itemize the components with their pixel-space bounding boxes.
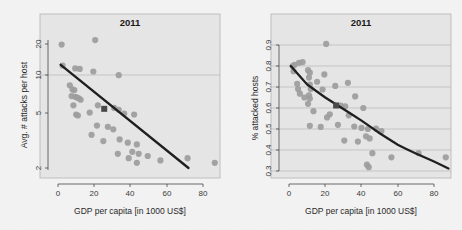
scatter-point [125,140,131,146]
scatter-point [310,108,316,114]
left-y-ticklabel-5: 5 [34,110,43,115]
scatter-point [324,114,330,120]
scatter-point [341,137,347,143]
right-x-ticklabel-20: 20 [321,189,330,198]
scatter-point [345,80,351,86]
scatter-point [360,105,366,111]
scatter-point [305,101,311,107]
panel-avg-attacks-per-host: 2011 20 10 5 2 0 20 40 60 80 [0,0,231,230]
scatter-point [117,136,123,142]
scatter-point [299,59,305,65]
scatter-point [115,151,121,157]
right-y-ticklabel-0-6: 0.6 [264,102,273,114]
scatter-point [332,83,338,89]
scatter-point [77,66,83,72]
highlight-marker [333,102,339,108]
scatter-point [90,68,96,74]
left-y-ticklabel-2: 2 [34,165,43,170]
scatter-point [157,157,163,163]
left-x-ticklabel-40: 40 [126,189,135,198]
scatter-point [110,126,116,132]
scatter-point [367,135,373,141]
scatter-point [212,160,218,166]
scatter-point [129,149,135,155]
scatter-point [105,124,111,130]
right-x-ticklabel-60: 60 [394,189,403,198]
right-y-ticklabel-0-8: 0.8 [264,60,273,72]
left-x-ticklabel-80: 80 [199,189,208,198]
scatter-point [88,132,94,138]
scatter-point [95,102,101,108]
scatter-point [323,41,329,47]
scatter-point [355,139,361,145]
scatter-point [100,138,106,144]
scatter-point [358,125,364,131]
right-y-ticklabel-0-4: 0.4 [264,144,273,156]
scatter-point [321,71,327,77]
right-plot-svg: 2011 0.9 0 [231,0,462,230]
scatter-point [369,150,375,156]
scatter-point [116,72,122,78]
right-y-axis-title: % attacked hosts [250,76,260,141]
panel-pct-attacked-hosts: 2011 0.9 0 [231,0,462,230]
left-y-ticklabel-20: 20 [34,39,43,48]
left-x-ticklabel-0: 0 [56,189,61,198]
two-panel-scatter-figure: 2011 20 10 5 2 0 20 40 60 80 [0,0,462,230]
right-x-ticklabel-40: 40 [357,189,366,198]
scatter-point [87,109,93,115]
left-plot-svg: 2011 20 10 5 2 0 20 40 60 80 [0,0,231,230]
scatter-point [78,97,84,103]
right-y-ticklabel-0-3: 0.3 [264,165,273,177]
scatter-point [131,111,137,117]
right-y-ticklabel-0-9: 0.9 [264,39,273,51]
scatter-point [352,93,358,99]
scatter-point [94,122,100,128]
right-y-ticklabel-0-5: 0.5 [264,123,273,135]
highlight-marker [101,106,107,112]
left-x-ticklabel-60: 60 [163,189,172,198]
scatter-point [351,123,357,129]
scatter-point [294,81,300,87]
scatter-point [145,153,151,159]
scatter-point [443,154,449,160]
scatter-point [335,122,341,128]
scatter-point [59,41,65,47]
scatter-point [136,151,142,157]
scatter-point [71,87,77,93]
scatter-point [301,94,307,100]
scatter-point [388,154,394,160]
scatter-point [134,141,140,147]
scatter-point [92,37,98,43]
scatter-point [307,123,313,129]
left-x-axis-title: GDP per capita [in 1000 US$] [74,206,186,216]
scatter-point [70,102,76,108]
right-x-axis-title: GDP per capita [in 1000 US$] [305,206,417,216]
scatter-point [366,164,372,170]
left-y-axis-title: Avg. # attacks per host [19,61,29,148]
left-panel-title: 2011 [120,17,141,28]
scatter-point [126,155,132,161]
right-panel-title: 2011 [351,17,372,28]
scatter-point [319,86,325,92]
scatter-point [314,79,320,85]
left-highlight-layer [101,106,107,112]
left-y-ticklabel-10: 10 [34,70,43,79]
scatter-point [318,124,324,130]
scatter-point [134,160,140,166]
scatter-point [75,112,81,118]
right-highlight-layer [333,102,339,108]
left-x-ticklabel-20: 20 [90,189,99,198]
right-y-ticklabel-0-7: 0.7 [264,81,273,93]
scatter-point [307,95,313,101]
scatter-point [184,155,190,161]
right-x-ticklabel-0: 0 [287,189,292,198]
scatter-point [306,74,312,80]
right-x-ticklabel-80: 80 [430,189,439,198]
